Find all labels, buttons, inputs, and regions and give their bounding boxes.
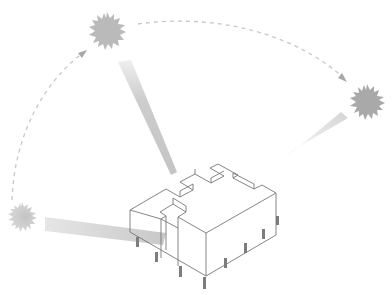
light-ray-noon <box>118 60 177 175</box>
sun-evening-icon <box>350 84 385 120</box>
sun-morning-icon <box>8 202 37 232</box>
arc-noon-to-evening <box>138 21 347 82</box>
sun-noon-icon <box>89 12 126 50</box>
building <box>130 164 279 289</box>
arrowhead-icon <box>78 50 87 58</box>
sun-path-diagram <box>0 0 392 295</box>
arrowhead-icon <box>338 73 347 82</box>
diagram-canvas <box>0 0 392 295</box>
light-ray-morning <box>45 217 166 245</box>
arc-morning-to-noon <box>12 50 87 200</box>
light-ray-evening <box>283 112 348 160</box>
